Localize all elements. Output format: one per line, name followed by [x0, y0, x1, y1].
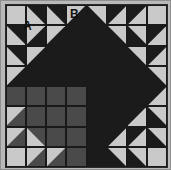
quilt-patch-r5-c3 — [66, 106, 86, 126]
quilt-patch-r1-c4 — [87, 25, 107, 45]
quilt-patch-r0-c3 — [66, 5, 86, 25]
quilt-patch-r1-c5 — [107, 25, 127, 45]
quilt-patch-r0-c6 — [127, 5, 147, 25]
quilt-patch-r6-c2 — [46, 127, 66, 147]
quilt-patch-r2-c5 — [107, 46, 127, 66]
quilt-patch-r1-c0 — [6, 25, 26, 45]
block-outer-frame: A B — [0, 0, 171, 170]
quilt-block-figure: A B — [0, 0, 171, 170]
quilt-patch-r3-c7 — [147, 66, 167, 86]
quilt-patch-r4-c1 — [26, 86, 46, 106]
quilt-patch-r3-c0 — [6, 66, 26, 86]
quilt-patch-r6-c1 — [26, 127, 46, 147]
quilt-patch-r6-c4 — [87, 127, 107, 147]
quilt-patch-r7-c0 — [6, 147, 26, 167]
quilt-patch-r5-c4 — [87, 106, 107, 126]
quilt-patch-r5-c5 — [107, 106, 127, 126]
quilt-patch-r0-c2 — [46, 5, 66, 25]
quilt-patch-r2-c0 — [6, 46, 26, 66]
quilt-patch-r7-c5 — [107, 147, 127, 167]
quilt-patch-r2-c3 — [66, 46, 86, 66]
quilt-patch-r4-c4 — [87, 86, 107, 106]
quilt-patch-r6-c0 — [6, 127, 26, 147]
quilt-patch-r2-c7 — [147, 46, 167, 66]
quilt-patch-r4-c3 — [66, 86, 86, 106]
quilt-patch-r7-c1 — [26, 147, 46, 167]
quilt-patch-r0-c0 — [6, 5, 26, 25]
quilt-patch-r7-c3 — [66, 147, 86, 167]
quilt-patch-r2-c1 — [26, 46, 46, 66]
quilt-patch-r1-c2 — [46, 25, 66, 45]
quilt-patch-r1-c1 — [26, 25, 46, 45]
quilt-patch-r6-c3 — [66, 127, 86, 147]
quilt-patch-r7-c7 — [147, 147, 167, 167]
quilt-patch-r5-c7 — [147, 106, 167, 126]
quilt-patch-r1-c6 — [127, 25, 147, 45]
quilt-patch-r2-c4 — [87, 46, 107, 66]
quilt-patch-r3-c3 — [66, 66, 86, 86]
quilt-patch-r7-c4 — [87, 147, 107, 167]
quilt-patch-r4-c2 — [46, 86, 66, 106]
quilt-patch-r7-c2 — [46, 147, 66, 167]
quilt-patch-r4-c7 — [147, 86, 167, 106]
quilt-patch-r3-c6 — [127, 66, 147, 86]
quilt-patch-r3-c2 — [46, 66, 66, 86]
quilt-patch-r4-c6 — [127, 86, 147, 106]
quilt-block-grid — [6, 5, 167, 167]
quilt-patch-r5-c6 — [127, 106, 147, 126]
quilt-patch-r4-c5 — [107, 86, 127, 106]
quilt-patch-r3-c4 — [87, 66, 107, 86]
quilt-patch-r6-c6 — [127, 127, 147, 147]
quilt-patch-r0-c4 — [87, 5, 107, 25]
quilt-patch-r2-c2 — [46, 46, 66, 66]
quilt-patch-r2-c6 — [127, 46, 147, 66]
quilt-patch-r6-c7 — [147, 127, 167, 147]
quilt-patch-r3-c5 — [107, 66, 127, 86]
quilt-patch-r7-c6 — [127, 147, 147, 167]
quilt-patch-r3-c1 — [26, 66, 46, 86]
quilt-patch-r4-c0 — [6, 86, 26, 106]
quilt-patch-r5-c1 — [26, 106, 46, 126]
quilt-patch-r6-c5 — [107, 127, 127, 147]
quilt-patch-r1-c3 — [66, 25, 86, 45]
quilt-patch-r0-c7 — [147, 5, 167, 25]
quilt-patch-r0-c1 — [26, 5, 46, 25]
quilt-patch-r5-c2 — [46, 106, 66, 126]
quilt-patch-r0-c5 — [107, 5, 127, 25]
quilt-patch-r5-c0 — [6, 106, 26, 126]
quilt-patch-r1-c7 — [147, 25, 167, 45]
